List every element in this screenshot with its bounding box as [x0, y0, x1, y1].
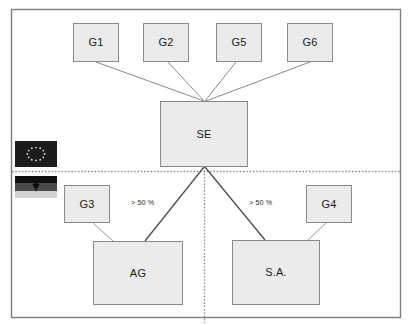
- german-eagle-icon: [32, 182, 41, 193]
- edge-g3-ag: [92, 222, 113, 241]
- node-se[interactable]: SE: [160, 101, 248, 167]
- eu-stars-icon: [15, 141, 57, 167]
- edge-label-se-sa: > 50 %: [249, 198, 272, 207]
- node-sa-label: S.A.: [265, 267, 287, 278]
- node-g3-label: G3: [79, 199, 94, 210]
- node-g1[interactable]: G1: [73, 23, 119, 62]
- diagram-canvas: G1 G2 G5 G6 SE G3 G4 AG S.A. > 50 % > 50…: [0, 0, 413, 325]
- node-g4[interactable]: G4: [306, 185, 352, 223]
- edge-g2-se: [168, 62, 204, 101]
- edge-label-se-ag: > 50 %: [131, 198, 154, 207]
- node-g2-label: G2: [158, 37, 173, 48]
- node-g5[interactable]: G5: [216, 23, 262, 62]
- node-ag-label: AG: [130, 268, 146, 279]
- node-g2[interactable]: G2: [143, 23, 189, 62]
- edge-g4-sa: [308, 222, 327, 240]
- node-g6-label: G6: [302, 37, 317, 48]
- node-ag[interactable]: AG: [93, 241, 183, 305]
- node-g4-label: G4: [321, 199, 336, 210]
- germany-flag-icon: [15, 176, 57, 198]
- node-g1-label: G1: [88, 37, 103, 48]
- eu-flag-icon: [15, 141, 57, 167]
- node-g5-label: G5: [231, 37, 246, 48]
- node-g6[interactable]: G6: [287, 23, 333, 62]
- node-se-label: SE: [196, 129, 211, 140]
- edge-g6-se: [206, 62, 310, 101]
- edge-g1-se: [96, 62, 204, 101]
- node-g3[interactable]: G3: [64, 185, 110, 223]
- node-sa[interactable]: S.A.: [232, 240, 320, 305]
